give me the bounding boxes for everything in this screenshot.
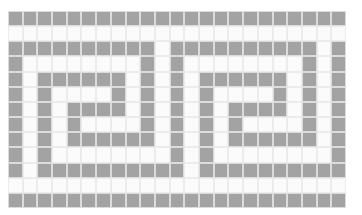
tile-filled: [140, 72, 155, 87]
tile-filled: [243, 163, 258, 178]
tile-empty: [273, 26, 288, 41]
tile-filled: [287, 132, 302, 147]
tile-empty: [96, 178, 111, 193]
tile-filled: [331, 72, 346, 87]
tile-filled: [228, 117, 243, 132]
tile-filled: [170, 87, 185, 102]
tile-filled: [199, 117, 214, 132]
tile-filled: [81, 11, 96, 26]
tile-empty: [126, 178, 141, 193]
tile-empty: [81, 26, 96, 41]
tile-filled: [228, 72, 243, 87]
tile-filled: [8, 72, 23, 87]
tile-filled: [214, 11, 229, 26]
tile-empty: [184, 147, 199, 162]
tile-empty: [23, 26, 38, 41]
tile-empty: [214, 87, 229, 102]
tile-empty: [184, 132, 199, 147]
tile-filled: [214, 163, 229, 178]
tile-empty: [243, 87, 258, 102]
tile-filled: [140, 132, 155, 147]
tile-filled: [317, 11, 332, 26]
tile-empty: [287, 26, 302, 41]
tile-filled: [302, 193, 317, 208]
tile-empty: [184, 178, 199, 193]
tile-empty: [8, 178, 23, 193]
tile-filled: [199, 87, 214, 102]
tile-empty: [23, 147, 38, 162]
tile-filled: [37, 132, 52, 147]
tile-empty: [140, 147, 155, 162]
tile-filled: [331, 87, 346, 102]
tile-filled: [37, 11, 52, 26]
tile-empty: [126, 26, 141, 41]
tile-filled: [23, 193, 38, 208]
tile-empty: [184, 56, 199, 71]
tile-filled: [199, 163, 214, 178]
tile-filled: [273, 193, 288, 208]
tile-filled: [331, 193, 346, 208]
tile-filled: [126, 132, 141, 147]
tile-empty: [258, 56, 273, 71]
tile-filled: [8, 132, 23, 147]
tile-filled: [37, 117, 52, 132]
tile-filled: [317, 163, 332, 178]
tile-filled: [8, 11, 23, 26]
tile-filled: [111, 132, 126, 147]
tile-empty: [67, 56, 82, 71]
tile-empty: [67, 147, 82, 162]
tile-filled: [126, 163, 141, 178]
tile-filled: [67, 117, 82, 132]
tile-empty: [23, 72, 38, 87]
tile-filled: [8, 163, 23, 178]
tile-empty: [37, 26, 52, 41]
tile-filled: [96, 163, 111, 178]
tile-empty: [155, 117, 170, 132]
tile-empty: [287, 56, 302, 71]
tile-empty: [184, 163, 199, 178]
tile-filled: [96, 132, 111, 147]
tile-empty: [81, 178, 96, 193]
tile-filled: [170, 132, 185, 147]
tile-empty: [317, 117, 332, 132]
tile-filled: [111, 193, 126, 208]
tile-filled: [302, 56, 317, 71]
tile-filled: [67, 11, 82, 26]
tile-filled: [302, 72, 317, 87]
tile-filled: [228, 193, 243, 208]
tile-empty: [52, 147, 67, 162]
tile-empty: [126, 87, 141, 102]
tile-empty: [155, 41, 170, 56]
tile-empty: [317, 26, 332, 41]
tile-empty: [52, 132, 67, 147]
tile-empty: [96, 87, 111, 102]
tile-filled: [111, 72, 126, 87]
tile-empty: [155, 56, 170, 71]
tile-filled: [243, 193, 258, 208]
tile-filled: [67, 163, 82, 178]
tile-empty: [52, 26, 67, 41]
tile-empty: [228, 147, 243, 162]
tile-filled: [111, 11, 126, 26]
tile-filled: [302, 102, 317, 117]
tile-empty: [155, 147, 170, 162]
tile-empty: [258, 147, 273, 162]
tile-empty: [81, 117, 96, 132]
tile-empty: [126, 72, 141, 87]
tile-filled: [52, 72, 67, 87]
tile-empty: [96, 117, 111, 132]
tile-empty: [184, 87, 199, 102]
tile-filled: [258, 193, 273, 208]
tile-filled: [111, 163, 126, 178]
tile-filled: [140, 163, 155, 178]
tile-empty: [228, 87, 243, 102]
tile-empty: [243, 56, 258, 71]
tile-filled: [170, 163, 185, 178]
tile-filled: [67, 132, 82, 147]
tile-filled: [199, 72, 214, 87]
tile-empty: [243, 147, 258, 162]
tile-empty: [317, 87, 332, 102]
tile-empty: [287, 72, 302, 87]
tile-filled: [199, 147, 214, 162]
tile-empty: [8, 26, 23, 41]
